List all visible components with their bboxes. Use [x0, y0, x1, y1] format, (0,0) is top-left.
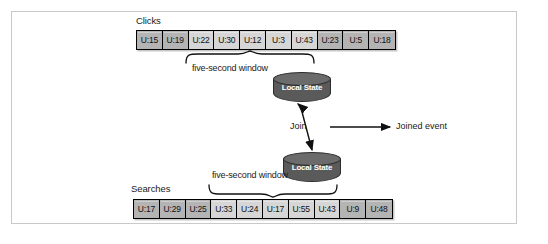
stream-label-searches: Searches	[131, 183, 170, 194]
event-cell: U:17	[134, 200, 160, 218]
event-cell: U:48	[366, 200, 392, 218]
event-cell: U:30	[214, 31, 240, 49]
event-cell: U:55	[289, 200, 315, 218]
window-caption-searches: five-second window	[212, 170, 288, 180]
diagram-canvas: Clicks U:15U:19U:22U:30U:12U:3U:43U:23U:…	[0, 0, 548, 244]
event-cell: U:25	[186, 200, 212, 218]
event-cell: U:43	[315, 200, 341, 218]
local-state-label-searches: Local State	[283, 163, 341, 172]
event-cell: U:29	[160, 200, 186, 218]
event-cell: U:22	[189, 31, 215, 49]
local-state-store-searches: Local State	[283, 152, 341, 186]
event-cell: U:17	[263, 200, 289, 218]
local-state-store-clicks: Local State	[273, 72, 331, 106]
stream-label-clicks: Clicks	[136, 15, 161, 26]
event-cell: U:43	[292, 31, 318, 49]
event-cell: U:9	[340, 200, 366, 218]
event-cell: U:3	[266, 31, 292, 49]
event-cell: U:23	[318, 31, 344, 49]
event-cell: U:18	[369, 31, 395, 49]
event-cell: U:5	[343, 31, 369, 49]
window-caption-clicks: five-second window	[192, 63, 268, 73]
event-cell: U:12	[240, 31, 266, 49]
event-cell: U:19	[163, 31, 189, 49]
event-cell: U:33	[211, 200, 237, 218]
window-brace-clicks	[184, 50, 316, 64]
joined-event-label: Joined event	[396, 121, 447, 131]
event-strip-clicks: U:15U:19U:22U:30U:12U:3U:43U:23U:5U:18	[136, 30, 396, 50]
local-state-label-clicks: Local State	[273, 83, 331, 92]
event-cell: U:24	[237, 200, 263, 218]
join-label: Join	[290, 121, 307, 131]
event-strip-searches: U:17U:29U:25U:33U:24U:17U:55U:43U:9U:48	[133, 199, 393, 219]
window-brace-searches	[207, 184, 339, 198]
event-cell: U:15	[137, 31, 163, 49]
